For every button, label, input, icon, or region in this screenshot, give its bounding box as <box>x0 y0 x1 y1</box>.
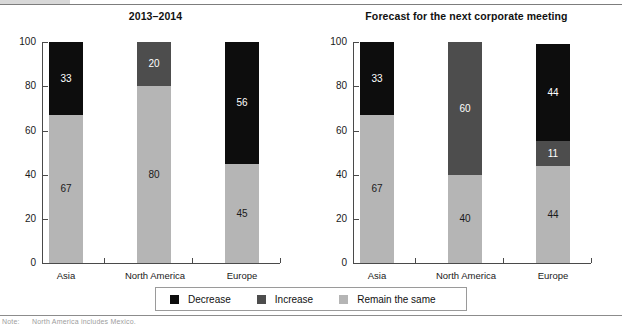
x-tick-1 <box>415 258 416 263</box>
bar-north-america[interactable]: 20 80 <box>137 42 171 263</box>
x-axis-label-asia: Asia <box>36 270 96 281</box>
bar-europe[interactable]: 44 11 44 <box>536 44 570 263</box>
bar-asia[interactable]: 33 67 <box>49 42 83 263</box>
bar-segment-remain-the-same[interactable]: 67 <box>49 115 83 263</box>
y-tick-20 <box>43 219 48 220</box>
bar-north-america[interactable]: 60 40 <box>448 42 482 263</box>
legend-item-increase[interactable]: Increase <box>257 294 313 305</box>
y-axis-label-60: 60 <box>10 126 36 136</box>
y-axis-label-0: 0 <box>10 258 36 268</box>
x-tick-1 <box>104 258 105 263</box>
segment-value: 80 <box>148 170 159 180</box>
bar-segment-decrease[interactable]: 33 <box>360 42 394 115</box>
y-tick-100 <box>43 42 48 43</box>
x-axis-line <box>42 263 280 264</box>
segment-value: 11 <box>548 149 558 159</box>
plot-area-left: 100 80 60 40 20 0 33 67 20 80 <box>0 8 311 283</box>
bar-segment-remain-the-same[interactable]: 45 <box>225 164 259 263</box>
chart-panel-left: 2013–2014 100 80 60 40 20 0 33 67 <box>0 8 311 283</box>
y-tick-20 <box>354 219 359 220</box>
chart-legend: Decrease Increase Remain the same <box>155 287 467 311</box>
x-axis-line <box>353 263 591 264</box>
legend-swatch-icon <box>257 295 266 304</box>
legend-swatch-icon <box>339 295 348 304</box>
y-axis-label-100: 100 <box>321 37 347 47</box>
x-axis-label-asia: Asia <box>347 270 407 281</box>
bar-europe[interactable]: 56 45 <box>225 42 259 263</box>
segment-value: 44 <box>547 88 558 98</box>
segment-value: 67 <box>371 184 382 194</box>
chart-panel-right: Forecast for the next corporate meeting … <box>311 8 622 283</box>
segment-value: 60 <box>459 104 470 114</box>
y-axis-label-20: 20 <box>321 214 347 224</box>
bar-segment-increase[interactable]: 60 <box>448 42 482 175</box>
y-axis-label-40: 40 <box>321 170 347 180</box>
y-tick-80 <box>43 86 48 87</box>
y-axis-label-0: 0 <box>321 258 347 268</box>
segment-value: 33 <box>60 74 71 84</box>
y-axis-label-80: 80 <box>10 81 36 91</box>
y-axis-label-80: 80 <box>321 81 347 91</box>
bar-segment-increase[interactable]: 11 <box>536 141 570 166</box>
legend-item-remain-the-same[interactable]: Remain the same <box>339 294 435 305</box>
y-axis-line <box>42 42 43 264</box>
segment-value: 40 <box>459 214 470 224</box>
bar-asia[interactable]: 33 67 <box>360 42 394 263</box>
top-divider-rule <box>0 4 622 5</box>
plot-area-right: 100 80 60 40 20 0 33 67 60 40 <box>311 8 622 283</box>
bar-segment-increase[interactable]: 20 <box>137 42 171 86</box>
bar-segment-remain-the-same[interactable]: 44 <box>536 166 570 263</box>
y-axis-label-40: 40 <box>10 170 36 180</box>
segment-value: 56 <box>236 98 247 108</box>
legend-item-decrease[interactable]: Decrease <box>170 294 231 305</box>
y-axis-label-100: 100 <box>10 37 36 47</box>
bar-segment-remain-the-same[interactable]: 40 <box>448 175 482 263</box>
bar-segment-decrease[interactable]: 56 <box>225 42 259 164</box>
y-axis-label-20: 20 <box>10 214 36 224</box>
x-tick-2 <box>192 258 193 263</box>
x-axis-label-europe: Europe <box>212 270 272 281</box>
y-tick-60 <box>354 131 359 132</box>
bar-segment-decrease[interactable]: 33 <box>49 42 83 115</box>
x-axis-label-europe: Europe <box>523 270 583 281</box>
bar-segment-remain-the-same[interactable]: 67 <box>360 115 394 263</box>
y-axis-label-60: 60 <box>321 126 347 136</box>
bottom-divider-rule <box>0 315 622 316</box>
footnote-label: Note: <box>2 318 20 325</box>
bar-segment-decrease[interactable]: 44 <box>536 44 570 141</box>
y-tick-40 <box>43 175 48 176</box>
y-tick-100 <box>354 42 359 43</box>
segment-value: 67 <box>60 184 71 194</box>
legend-label: Decrease <box>188 294 231 305</box>
segment-value: 45 <box>236 209 247 219</box>
bar-segment-remain-the-same[interactable]: 80 <box>137 86 171 263</box>
legend-swatch-icon <box>170 295 179 304</box>
legend-label: Remain the same <box>357 294 435 305</box>
segment-value: 44 <box>547 210 558 220</box>
y-tick-60 <box>43 131 48 132</box>
legend-label: Increase <box>275 294 313 305</box>
x-axis-label-north-america: North America <box>421 270 511 281</box>
segment-value: 20 <box>148 59 159 69</box>
x-tick-2 <box>503 258 504 263</box>
x-axis-label-north-america: North America <box>110 270 200 281</box>
y-tick-80 <box>354 86 359 87</box>
footnote-text: North America includes Mexico. <box>32 318 136 325</box>
footnote: Note: North America includes Mexico. <box>2 318 136 325</box>
x-tick-3 <box>591 258 592 263</box>
y-tick-40 <box>354 175 359 176</box>
x-tick-3 <box>280 258 281 263</box>
y-axis-line <box>353 42 354 264</box>
segment-value: 33 <box>371 74 382 84</box>
